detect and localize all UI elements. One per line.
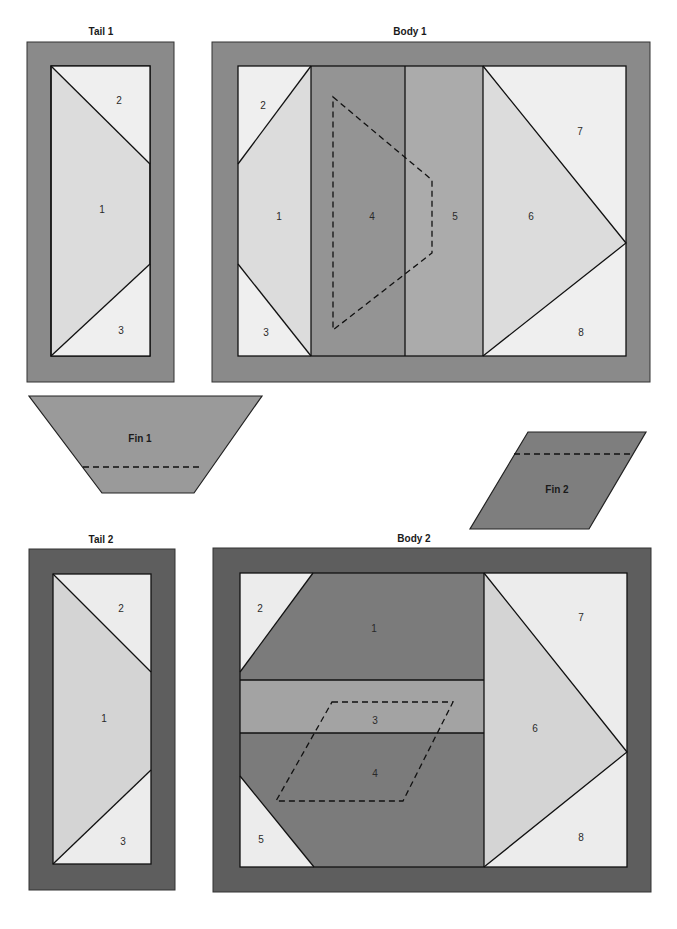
fin1-block: Fin 1 [29, 396, 262, 493]
tail1-label-3: 3 [118, 325, 124, 336]
body1-label-7: 7 [577, 126, 583, 137]
tail2-label-3: 3 [120, 836, 126, 847]
tail1-label-1: 1 [99, 204, 105, 215]
body1-label-6: 6 [528, 211, 534, 222]
body1-label-1: 1 [276, 211, 282, 222]
fin2-block: Fin 2 [470, 432, 646, 529]
tail2-title: Tail 2 [89, 534, 114, 545]
fin1-shape [29, 396, 262, 493]
body1-piece-4 [311, 66, 405, 356]
fin2-title: Fin 2 [545, 484, 569, 495]
body2-label-8: 8 [578, 832, 584, 843]
body2-label-4: 4 [372, 768, 378, 779]
body2-block: Body 2 2 1 3 4 5 6 7 8 [213, 533, 651, 892]
tail1-block: Tail 1 2 1 3 [27, 26, 174, 382]
body1-block: Body 1 2 1 3 4 5 6 7 8 [212, 26, 650, 382]
body2-piece-3 [240, 680, 484, 733]
body2-label-3: 3 [372, 715, 378, 726]
body2-label-1: 1 [371, 623, 377, 634]
tail1-title: Tail 1 [89, 26, 114, 37]
fin2-shape [470, 432, 646, 529]
tail2-label-1: 1 [101, 713, 107, 724]
body1-label-8: 8 [578, 327, 584, 338]
body1-label-3: 3 [263, 327, 269, 338]
body2-title: Body 2 [397, 533, 431, 544]
body1-piece-5 [405, 66, 483, 356]
tail2-block: Tail 2 2 1 3 [29, 534, 175, 890]
body1-label-2: 2 [260, 100, 266, 111]
tail2-label-2: 2 [118, 603, 124, 614]
body2-label-2: 2 [257, 603, 263, 614]
quilt-pattern-diagram: Tail 1 2 1 3 Body 1 2 1 3 4 5 6 [0, 0, 677, 929]
body2-label-6: 6 [532, 723, 538, 734]
body1-label-5: 5 [452, 211, 458, 222]
body2-label-7: 7 [578, 612, 584, 623]
tail1-label-2: 2 [116, 95, 122, 106]
body2-label-5: 5 [258, 834, 264, 845]
body1-label-4: 4 [369, 211, 375, 222]
body1-title: Body 1 [393, 26, 427, 37]
fin1-title: Fin 1 [128, 433, 152, 444]
